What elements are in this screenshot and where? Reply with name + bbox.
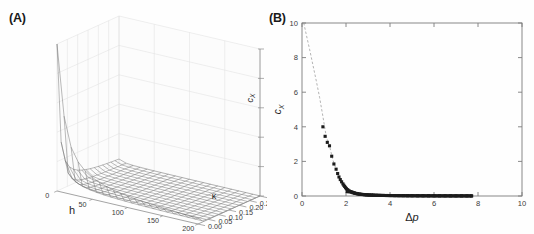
- tick-label-x: 10: [518, 199, 526, 208]
- tick-label-y: 6: [294, 88, 298, 97]
- tick-kappa: [219, 215, 226, 217]
- tick-kappa: [239, 205, 246, 207]
- tick-label-y: 4: [294, 123, 298, 132]
- tick-kappa: [250, 201, 257, 203]
- surface-plot-3d: 0501001502000.000.050.100.150.200.250.30…: [0, 0, 267, 234]
- axis-title-y: cX: [272, 104, 285, 114]
- guide-curve: [304, 23, 472, 196]
- tick-label-y: 0: [294, 192, 298, 201]
- figure-container: (A) 0501001502000.000.050.100.150.200.25…: [0, 0, 534, 234]
- tick-h: [195, 224, 198, 225]
- axis-title-y-text: cX: [272, 104, 285, 114]
- data-point: [324, 135, 327, 138]
- tick-label-h: 200: [182, 224, 194, 233]
- tick-h: [54, 191, 57, 192]
- tick-label-h: 50: [78, 200, 86, 209]
- panel-b: (B) 02468100246810ΔpcX: [267, 0, 534, 234]
- tick-label-kappa: 0.25: [260, 199, 267, 208]
- data-point: [326, 141, 329, 144]
- data-markers: [321, 125, 473, 197]
- tick-label-h: 150: [147, 216, 159, 225]
- panel-b-label: (B): [269, 11, 286, 25]
- data-point: [336, 172, 339, 175]
- tick-h: [89, 199, 92, 200]
- panel-a-label: (A): [9, 11, 26, 25]
- data-point: [335, 168, 338, 171]
- data-point: [330, 155, 333, 158]
- data-point: [328, 144, 331, 147]
- tick-label-y: 8: [294, 53, 298, 62]
- dashed-guide-curve: [304, 23, 472, 196]
- axis-title-h: h: [69, 204, 75, 216]
- axis-title-x: Δp: [405, 211, 418, 223]
- data-point: [321, 125, 324, 128]
- tick-label-x: 0: [300, 199, 304, 208]
- tick-h: [160, 216, 163, 217]
- tick-label-h: 0: [45, 191, 49, 200]
- panel-a: (A) 0501001502000.000.050.100.150.200.25…: [0, 0, 267, 234]
- tick-labels: 02468100246810ΔpcX: [272, 19, 526, 223]
- tick-label-x: 8: [476, 199, 480, 208]
- tick-label-y: 2: [294, 157, 298, 166]
- data-point: [470, 194, 473, 197]
- tick-label-x: 4: [388, 199, 392, 208]
- tick-kappa: [208, 219, 215, 221]
- scatter-plot: 02468100246810ΔpcX: [267, 0, 534, 234]
- tick-label-x: 6: [432, 199, 436, 208]
- tick-label-x: 2: [344, 199, 348, 208]
- data-point: [332, 162, 335, 165]
- tick-kappa: [229, 210, 236, 212]
- tick-label-h: 100: [112, 208, 124, 217]
- tick-kappa: [198, 224, 205, 226]
- tick-h: [125, 208, 128, 209]
- tick-label-y: 10: [290, 19, 298, 28]
- axis-title-kappa: κ: [212, 191, 217, 201]
